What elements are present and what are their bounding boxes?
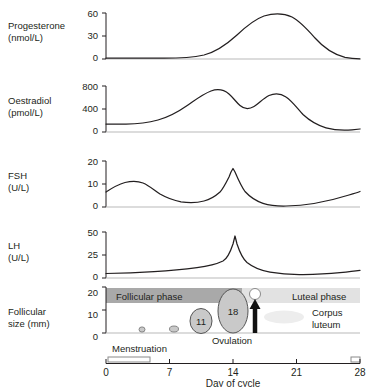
menstruation-label: Menstruation: [112, 343, 167, 354]
ytick-follicle-0: 0: [72, 331, 98, 342]
ytick-lh-25: 25: [72, 249, 98, 260]
corpus-luteum-shape: [264, 311, 304, 324]
ytick-follicle-10: 10: [72, 309, 98, 320]
xtick-28: 28: [354, 367, 366, 378]
corpus-luteum-label-line1: Corpus: [312, 307, 343, 318]
x-axis-title: Day of cycle: [206, 378, 261, 387]
follicle-11-label: 11: [196, 316, 206, 327]
ytick-fsh-10: 10: [72, 178, 98, 189]
xtick-14: 14: [227, 367, 239, 378]
luteal-phase-label: Luteal phase: [292, 291, 346, 302]
follicular-phase-label: Follicular phase: [116, 291, 183, 302]
menstrual-cycle-hormone-figure: Progesterone (nmol/L) 60 30 0 Oestradiol…: [0, 0, 370, 387]
panel-fsh: FSH (U/L) 20 10 0: [0, 150, 370, 222]
xtick-0: 0: [103, 367, 109, 378]
panel-follicle-size: Follicular size (mm) 20 10 0 Follicular …: [0, 290, 370, 387]
plot-progesterone: [104, 0, 362, 72]
xtick-21: 21: [291, 367, 303, 378]
ytick-progesterone-0: 0: [72, 52, 98, 63]
follicle-dot-early-1: [139, 327, 145, 332]
plot-lh: [104, 222, 362, 290]
ytick-progesterone-60: 60: [72, 8, 98, 19]
plot-follicle-size: Follicular phase Luteal phase 11 18: [104, 284, 362, 387]
plot-fsh: [104, 150, 362, 222]
ytick-fsh-20: 20: [72, 156, 98, 167]
panel-lh: LH (U/L) 50 25 0: [0, 222, 370, 290]
ovulation-arrow: [250, 299, 261, 333]
follicle-18-label: 18: [228, 306, 239, 317]
corpus-luteum-label-line2: luteum: [312, 319, 341, 330]
ovulation-label: Ovulation: [212, 335, 252, 346]
ytick-lh-0: 0: [72, 271, 98, 282]
ytick-lh-50: 50: [72, 227, 98, 238]
ytick-progesterone-30: 30: [72, 30, 98, 41]
panel-progesterone: Progesterone (nmol/L) 60 30 0: [0, 0, 370, 72]
plot-oestradiol: [104, 75, 362, 147]
menstruation-bar-start: [108, 357, 150, 362]
ytick-follicle-20: 20: [72, 287, 98, 298]
panel-oestradiol: Oestradiol (pmol/L) 800 400 0: [0, 75, 370, 147]
ovum-shape: [250, 289, 261, 300]
ytick-oestradiol-800: 800: [62, 81, 98, 92]
ytick-fsh-0: 0: [72, 200, 98, 211]
ytick-oestradiol-0: 0: [62, 125, 98, 136]
ytick-oestradiol-400: 400: [62, 103, 98, 114]
follicle-dot-early-2: [170, 326, 179, 332]
menstruation-bar-end: [351, 357, 360, 362]
xtick-7: 7: [167, 367, 173, 378]
